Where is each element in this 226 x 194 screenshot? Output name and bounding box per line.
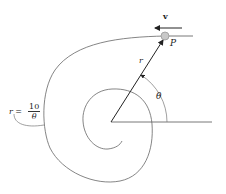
equation-fraction: 10 θ <box>28 102 40 121</box>
spiral-equation: r = 10 θ <box>9 102 40 121</box>
spiral-path <box>44 36 165 182</box>
equation-numerator: 10 <box>28 102 40 112</box>
equation-denominator: θ <box>32 112 37 121</box>
spiral-diagram <box>0 0 226 194</box>
point-label: P <box>170 39 176 48</box>
velocity-label: v <box>163 12 168 20</box>
theta-arc <box>141 75 167 122</box>
equation-lhs: r = <box>9 107 22 116</box>
radius-label: r <box>139 57 143 65</box>
angle-label: θ <box>156 92 161 101</box>
radius-vector <box>111 40 163 122</box>
particle-p <box>161 32 169 40</box>
